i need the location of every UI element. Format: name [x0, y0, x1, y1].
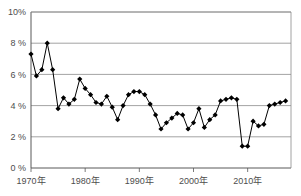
y-tick-label: 10% — [8, 7, 26, 17]
x-tick-label: 2000年 — [179, 175, 208, 186]
x-tick-label: 1980年 — [71, 175, 100, 186]
y-tick-label: 2 % — [10, 132, 26, 142]
x-tick-label: 1990年 — [125, 175, 154, 186]
y-tick-label: 4 % — [10, 101, 26, 111]
y-tick-label: 8 % — [10, 38, 26, 48]
chart-canvas: 0 %2 %4 %6 %8 %10% 1970年1980年1990年2000年2… — [0, 0, 301, 196]
y-tick-label: 0 % — [10, 163, 26, 173]
y-tick-label: 6 % — [10, 70, 26, 80]
chart-background — [0, 0, 301, 196]
x-tick-label: 2010年 — [233, 175, 262, 186]
line-chart: 0 %2 %4 %6 %8 %10% 1970年1980年1990年2000年2… — [0, 0, 301, 196]
x-tick-label: 1970年 — [16, 175, 45, 186]
